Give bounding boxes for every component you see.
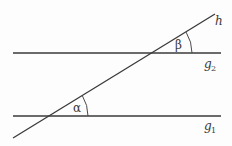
line-h-label: h [215, 14, 223, 28]
angle-beta-label: β [175, 38, 182, 52]
angle-alpha-label: α [73, 101, 81, 115]
diagram-canvas: α β h g 2 g 1 [0, 0, 232, 146]
parallel-lines-diagram: α β h g 2 g 1 [0, 0, 232, 146]
line-g1-subscript: 1 [211, 126, 216, 135]
angle-beta-arc [186, 32, 192, 53]
line-g2-subscript: 2 [211, 64, 216, 73]
angle-alpha-arc [82, 96, 88, 116]
line-h-transversal [13, 14, 215, 138]
